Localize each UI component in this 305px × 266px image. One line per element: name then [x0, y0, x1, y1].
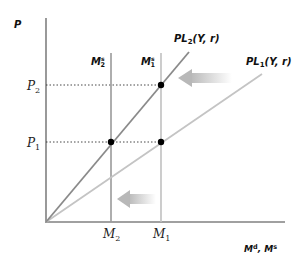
pl2-label: PL2(Y, r)	[174, 33, 220, 46]
y-axis-label: P	[14, 19, 22, 30]
m2s-label: Ms2	[91, 55, 105, 69]
p1-label: P1	[26, 136, 40, 152]
supply-shift-arrow	[117, 190, 156, 208]
money-market-diagram: P P2 P1 M2 M1 Md, Ms Ms2 Ms1 PL2(Y, r) P…	[0, 0, 305, 266]
m1s-label: Ms1	[141, 55, 156, 69]
demand-shift-arrow	[178, 69, 232, 87]
p2-label: P2	[26, 79, 40, 95]
m1-label: M1	[152, 227, 170, 243]
m2-label: M2	[102, 227, 120, 243]
point-m1-p2	[158, 82, 164, 88]
pl1-label: PL1(Y, r)	[246, 56, 292, 69]
point-m1-p1	[158, 139, 164, 145]
pl2-demand-curve	[46, 52, 189, 222]
point-m2-p1	[108, 139, 114, 145]
x-axis-label: Md, Ms	[244, 243, 277, 254]
